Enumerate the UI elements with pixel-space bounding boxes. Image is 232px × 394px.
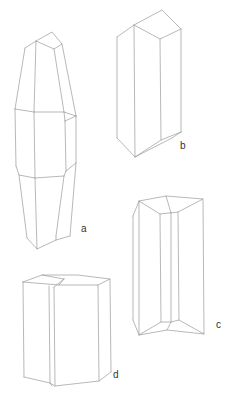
crystal-c xyxy=(133,196,204,335)
label-c: c xyxy=(216,320,221,330)
crystal-drawings xyxy=(0,0,232,394)
label-a: a xyxy=(81,224,87,234)
label-d: d xyxy=(113,370,119,380)
crystal-b xyxy=(117,10,181,157)
crystal-d xyxy=(23,275,111,386)
label-b: b xyxy=(180,141,186,151)
crystal-a xyxy=(15,32,76,249)
